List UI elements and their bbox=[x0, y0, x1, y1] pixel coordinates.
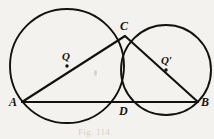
segment-AC bbox=[22, 36, 125, 102]
figure-caption-strip: Fig. 114. bbox=[0, 128, 214, 139]
scan-smudge bbox=[94, 70, 97, 76]
vertex-label-d: D bbox=[119, 105, 128, 117]
vertex-label-b: B bbox=[201, 96, 209, 108]
figure-caption: Fig. 114. bbox=[78, 128, 113, 137]
geometry-figure: A B C D Q Q′ Fig. 114. bbox=[0, 0, 214, 139]
vertex-label-c: C bbox=[120, 20, 128, 32]
geometry-canvas bbox=[0, 0, 214, 139]
center-dot-Q-prime bbox=[164, 68, 167, 71]
circles-group bbox=[10, 9, 211, 123]
center-dot-Q bbox=[65, 64, 68, 67]
center-label-q: Q bbox=[62, 51, 70, 62]
segments-group bbox=[22, 36, 198, 102]
vertex-label-a: A bbox=[9, 96, 17, 108]
center-label-q-prime: Q′ bbox=[161, 55, 172, 66]
segment-CB bbox=[125, 36, 198, 102]
